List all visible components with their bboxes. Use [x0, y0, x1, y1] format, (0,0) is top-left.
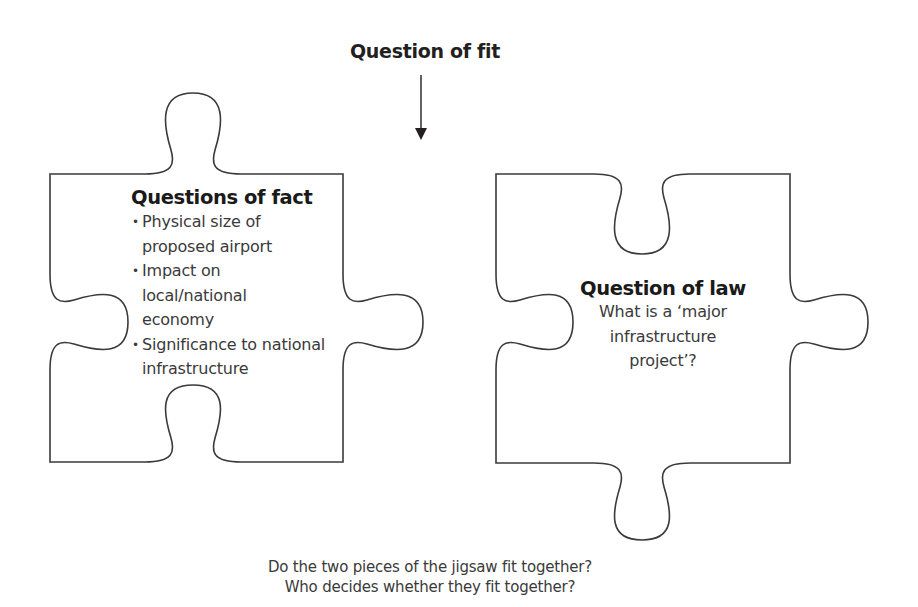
fact-bullet-text: Physical size of proposed airport	[142, 210, 292, 259]
fact-bullet-item: • Significance to national infrastructur…	[132, 333, 347, 382]
fact-bullet-item: • Physical size of proposed airport	[132, 210, 347, 259]
diagram-caption: Do the two pieces of the jigsaw fit toge…	[0, 557, 860, 597]
fact-piece-heading: Questions of fact	[131, 186, 312, 209]
bullet-icon: •	[132, 333, 139, 358]
fact-bullet-text: Impact on local/national economy	[142, 259, 260, 333]
law-piece-heading: Question of law	[563, 277, 763, 300]
bullet-icon: •	[132, 259, 139, 284]
law-piece-text: What is a ‘major infrastructure project’…	[593, 300, 733, 374]
law-piece-content: Question of law What is a ‘major infrast…	[563, 277, 763, 374]
fact-bullet-list: • Physical size of proposed airport • Im…	[132, 210, 347, 382]
bullet-icon: •	[132, 210, 139, 235]
caption-line-2: Who decides whether they fit together?	[0, 577, 860, 597]
fact-bullet-item: • Impact on local/national economy	[132, 259, 347, 333]
caption-line-1: Do the two pieces of the jigsaw fit toge…	[0, 557, 860, 577]
arrow-down-icon	[415, 75, 427, 140]
fact-bullet-text: Significance to national infrastructure	[142, 333, 347, 382]
diagram-title: Question of fit	[0, 40, 850, 62]
